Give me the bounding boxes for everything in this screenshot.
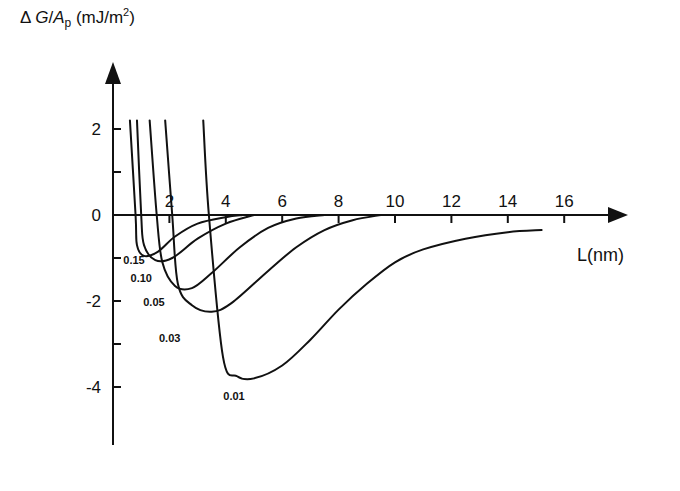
x-axis-arrow-icon [608,207,628,223]
y-title-delta: Δ [20,8,30,27]
y-title-unit-close: ) [129,8,135,27]
x-tick-label: 4 [221,192,230,211]
curve-label-0.10: 0.10 [131,272,152,284]
curves [130,120,542,379]
y-axis-title: Δ G/Ap (mJ/m2) [20,6,135,30]
x-tick-label: 16 [555,192,574,211]
x-tick-label: 14 [498,192,517,211]
x-tick-label: 8 [334,192,343,211]
y-tick-label: -4 [86,378,101,397]
curve-label-0.05: 0.05 [143,296,164,308]
y-title-a: A [53,8,64,27]
curve-label-0.03: 0.03 [159,332,180,344]
x-tick-label: 10 [386,192,405,211]
curve-label-0.15: 0.15 [123,254,144,266]
axes [105,62,628,445]
y-axis-arrow-icon [105,62,121,84]
curve-0.03 [165,120,381,311]
curve-0.01 [203,120,541,379]
y-title-g: G [35,8,48,27]
curve-label-0.01: 0.01 [223,390,244,402]
x-tick-label: 12 [442,192,461,211]
y-tick-label: -2 [86,292,101,311]
y-tick-label: 2 [92,120,101,139]
x-axis-title: L(nm) [577,245,624,266]
x-tick-label: 2 [165,192,174,211]
x-tick-label: 6 [277,192,286,211]
y-tick-label: 0 [92,206,101,225]
y-title-unit: (mJ/m [71,8,123,27]
curve-0.15 [130,120,243,256]
